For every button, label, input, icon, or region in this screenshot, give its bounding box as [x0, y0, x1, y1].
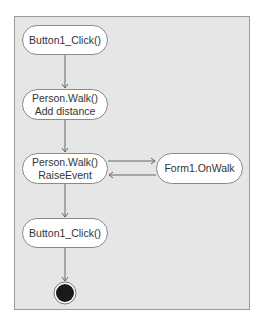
node-label-line1: Person.Walk()	[32, 92, 98, 105]
node-label: Form1.OnWalk	[164, 162, 234, 175]
node-button1-click-start[interactable]: Button1_Click()	[22, 25, 108, 55]
node-person-walk-add-distance[interactable]: Person.Walk() Add distance	[22, 89, 108, 120]
node-label-line2: RaiseEvent	[38, 169, 92, 182]
node-button1-click-end[interactable]: Button1_Click()	[22, 218, 108, 248]
node-label: Button1_Click()	[29, 34, 101, 47]
final-state-dot	[56, 284, 74, 302]
node-label: Button1_Click()	[29, 227, 101, 240]
node-form1-onwalk[interactable]: Form1.OnWalk	[156, 153, 243, 184]
node-label-line1: Person.Walk()	[32, 156, 98, 169]
node-label-line2: Add distance	[35, 105, 96, 118]
node-person-walk-raise-event[interactable]: Person.Walk() RaiseEvent	[22, 153, 108, 184]
